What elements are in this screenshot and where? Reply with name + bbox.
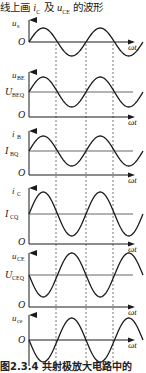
- origin-label: O: [18, 109, 25, 120]
- origin-label: O: [18, 167, 25, 178]
- y-axis-label-sub: ce: [17, 318, 23, 324]
- panel-ib: iBIBQOωt: [4, 129, 143, 185]
- origin-label: O: [18, 36, 25, 47]
- y-axis-label-sub: s: [17, 23, 20, 29]
- dc-level-label: I: [4, 145, 9, 156]
- x-axis-label: ωt: [128, 340, 137, 350]
- y-axis-label-sub: B: [17, 134, 21, 140]
- dc-level-label-sub: BEQ: [12, 92, 25, 98]
- origin-label: O: [18, 334, 25, 345]
- dc-level-label-sub: CQ: [10, 214, 19, 220]
- dc-level-label-sub: CEQ: [12, 275, 25, 281]
- origin-label: O: [18, 299, 25, 310]
- y-axis-label-sub: BE: [17, 75, 25, 81]
- x-axis-label: ωt: [128, 117, 137, 127]
- panel-uo: uceOωt: [12, 313, 143, 366]
- origin-label: O: [18, 236, 25, 247]
- panel-ube: uBEUBEQOωt: [5, 70, 143, 127]
- panel-us: usOωt: [12, 18, 143, 56]
- figure-caption: 图2.3.4 共射极放大电路中的: [0, 361, 146, 373]
- y-axis-label-sub: CE: [17, 256, 25, 262]
- panel-ic: iCICQOωt: [4, 186, 143, 254]
- x-axis-label: ωt: [128, 42, 137, 52]
- y-axis-label: i: [12, 186, 15, 196]
- dc-level-label: I: [4, 208, 9, 219]
- y-axis-label-sub: C: [17, 191, 21, 197]
- dc-level-label-sub: BQ: [10, 151, 19, 157]
- x-axis-label: ωt: [128, 175, 137, 185]
- panel-uce: uCEUCEQOωt: [5, 251, 143, 317]
- waveform-panels: usOωtuBEUBEQOωtiBIBQOωtiCICQOωtuCEUCEQOω…: [4, 18, 143, 366]
- y-axis-label: i: [12, 129, 15, 139]
- x-axis-label: ωt: [128, 307, 137, 317]
